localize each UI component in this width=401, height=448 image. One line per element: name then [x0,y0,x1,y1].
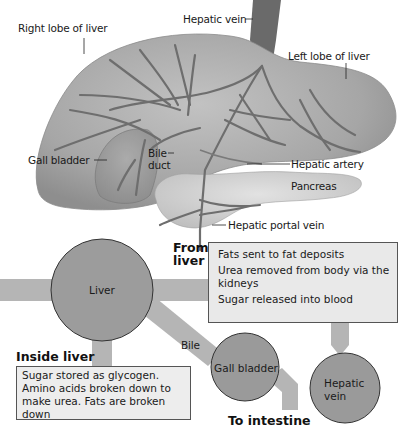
hepatic-vein-node-label: Hepatic vein [318,377,378,402]
liver-diagram: Right lobe of liver Hepatic vein Left lo… [0,0,401,448]
to-intestine-label: To intestine [228,414,311,428]
label-right-lobe: Right lobe of liver [18,22,107,34]
label-hepatic-artery: Hepatic artery [291,158,364,170]
bile-flow-label: Bile [181,339,200,351]
label-hepatic-portal-vein: Hepatic portal vein [228,219,324,231]
from-liver-item: Fats sent to fat deposits [218,248,397,261]
liver-node-label: Liver [72,284,132,297]
from-liver-item: Sugar released into blood [218,293,397,306]
label-left-lobe: Left lobe of liver [288,50,370,62]
inside-liver-text: Sugar stored as glycogen. Amino acids br… [22,369,190,421]
label-pancreas: Pancreas [291,180,337,192]
from-liver-item: Urea removed from body via the kidneys [218,264,393,290]
label-bile-duct-line2: duct [148,159,170,171]
label-hepatic-vein: Hepatic vein [183,13,246,25]
from-liver-heading-line2: liver [173,254,204,268]
inside-liver-heading: Inside liver [16,350,94,364]
label-bile-duct-line1: Bile [148,147,167,159]
gall-bladder-node-label: Gall bladder [211,362,281,375]
from-liver-box: Fats sent to fat deposits Urea removed f… [208,242,398,323]
hepatic-vein-node-label-line2: vein [324,390,378,403]
inside-liver-box: Sugar stored as glycogen. Amino acids br… [16,366,191,420]
label-gall-bladder: Gall bladder [28,154,89,166]
hepatic-vein-node-label-line1: Hepatic [324,377,378,390]
